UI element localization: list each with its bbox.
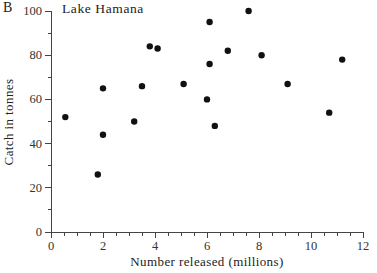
data-point bbox=[326, 109, 332, 115]
data-point bbox=[100, 132, 106, 138]
svg-text:60: 60 bbox=[30, 92, 43, 106]
svg-text:0: 0 bbox=[48, 239, 54, 253]
data-point bbox=[225, 48, 231, 54]
svg-text:80: 80 bbox=[30, 48, 43, 62]
data-point bbox=[212, 123, 218, 129]
svg-text:6: 6 bbox=[204, 239, 210, 253]
svg-text:0: 0 bbox=[36, 225, 42, 239]
data-point bbox=[258, 52, 264, 58]
data-point bbox=[95, 171, 101, 177]
data-point bbox=[204, 96, 210, 102]
data-point bbox=[154, 45, 160, 51]
svg-text:100: 100 bbox=[23, 4, 42, 18]
scatter-plot-svg: 024681012020406080100 bbox=[0, 0, 377, 273]
data-point bbox=[339, 56, 345, 62]
svg-text:10: 10 bbox=[305, 239, 318, 253]
svg-text:4: 4 bbox=[152, 239, 159, 253]
svg-text:8: 8 bbox=[256, 239, 262, 253]
data-point bbox=[206, 61, 212, 67]
data-point bbox=[131, 118, 137, 124]
scatter-figure: B Lake Hamana Catch in tonnes Number rel… bbox=[0, 0, 377, 273]
svg-text:12: 12 bbox=[357, 239, 370, 253]
data-point bbox=[245, 8, 251, 14]
data-point bbox=[284, 81, 290, 87]
data-point bbox=[100, 85, 106, 91]
svg-text:20: 20 bbox=[30, 181, 43, 195]
data-point bbox=[147, 43, 153, 49]
svg-text:40: 40 bbox=[30, 137, 43, 151]
data-point bbox=[62, 114, 68, 120]
svg-text:2: 2 bbox=[100, 239, 106, 253]
data-point bbox=[180, 81, 186, 87]
data-point bbox=[206, 19, 212, 25]
data-point bbox=[139, 83, 145, 89]
